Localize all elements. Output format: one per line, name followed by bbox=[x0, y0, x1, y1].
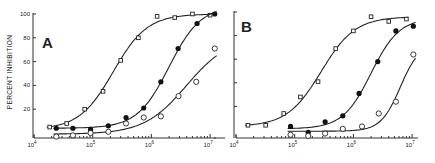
data-point-open-square bbox=[282, 112, 286, 116]
fit-curve-open-square bbox=[47, 14, 213, 127]
data-point-filled-circle bbox=[356, 91, 361, 96]
data-point-open-square bbox=[101, 90, 105, 94]
data-point-open-circle bbox=[340, 126, 345, 131]
data-point-open-square bbox=[352, 29, 356, 33]
y-tick-label: 20 bbox=[23, 106, 30, 112]
data-point-filled-circle bbox=[194, 21, 199, 26]
fit-curve-filled-circle bbox=[53, 12, 216, 129]
data-point-open-square bbox=[369, 15, 373, 19]
x-tick-label: 105 bbox=[86, 140, 96, 148]
data-point-open-square bbox=[65, 122, 69, 126]
data-point-filled-circle bbox=[393, 28, 398, 33]
data-point-open-circle bbox=[123, 121, 128, 126]
x-tick-label: 107 bbox=[203, 140, 213, 148]
data-point-open-square bbox=[299, 95, 303, 99]
data-point-filled-circle bbox=[106, 123, 111, 128]
y-tick-label: 100 bbox=[20, 11, 31, 17]
data-point-open-circle bbox=[288, 132, 293, 137]
data-point-filled-circle bbox=[212, 11, 217, 16]
data-point-open-square bbox=[119, 59, 123, 63]
data-point-filled-circle bbox=[411, 24, 416, 29]
x-tick-label: 106 bbox=[347, 140, 357, 148]
data-point-open-square bbox=[191, 12, 195, 16]
data-point-filled-circle bbox=[54, 126, 59, 131]
panel-a-plot: 20406080100104105106107A bbox=[20, 11, 217, 148]
data-point-open-circle bbox=[393, 99, 398, 104]
x-tick-label: 104 bbox=[27, 140, 37, 148]
data-point-open-circle bbox=[306, 133, 311, 138]
x-tick-label: 105 bbox=[288, 140, 298, 148]
data-point-open-circle bbox=[158, 114, 163, 119]
data-point-open-circle bbox=[323, 131, 328, 136]
data-point-open-circle bbox=[411, 52, 416, 57]
data-point-open-circle bbox=[54, 134, 59, 139]
data-point-open-circle bbox=[70, 133, 75, 138]
y-tick-label: 80 bbox=[23, 35, 30, 41]
data-point-open-square bbox=[83, 107, 87, 111]
data-point-open-square bbox=[405, 17, 409, 21]
data-point-filled-circle bbox=[375, 59, 380, 64]
data-point-filled-circle bbox=[70, 126, 75, 131]
x-tick-label: 106 bbox=[145, 140, 155, 148]
panel-label: B bbox=[241, 18, 252, 35]
data-point-open-square bbox=[137, 36, 141, 40]
panel-label: A bbox=[42, 34, 53, 51]
fit-curve-open-circle bbox=[288, 58, 416, 131]
x-tick-label: 107 bbox=[405, 140, 415, 148]
fit-curve-open-square bbox=[245, 17, 408, 125]
data-point-filled-circle bbox=[323, 119, 328, 124]
data-point-filled-circle bbox=[175, 46, 180, 51]
data-point-open-square bbox=[316, 80, 320, 84]
data-point-filled-circle bbox=[123, 115, 128, 120]
data-point-open-square bbox=[173, 16, 177, 20]
data-point-open-circle bbox=[106, 129, 111, 134]
y-tick-label: 60 bbox=[23, 59, 30, 65]
data-point-open-square bbox=[264, 123, 268, 127]
data-point-open-circle bbox=[141, 115, 146, 120]
panel-b-plot: 104105106107B bbox=[214, 11, 418, 148]
data-point-open-square bbox=[334, 47, 338, 51]
fit-curve-filled-circle bbox=[288, 23, 416, 129]
fit-curve-open-circle bbox=[53, 56, 216, 134]
data-point-open-square bbox=[387, 20, 391, 24]
data-point-open-circle bbox=[376, 111, 381, 116]
data-point-filled-circle bbox=[288, 124, 293, 129]
data-point-open-circle bbox=[359, 124, 364, 129]
dose-response-figure: 20406080100104105106107A 104105106107B P… bbox=[0, 0, 435, 163]
y-axis-label: PERCENT INHIBITION bbox=[6, 35, 13, 110]
y-tick-label: 40 bbox=[23, 82, 30, 88]
data-point-filled-circle bbox=[340, 113, 345, 118]
data-point-filled-circle bbox=[158, 79, 163, 84]
data-point-open-circle bbox=[88, 130, 93, 135]
data-point-open-circle bbox=[176, 94, 181, 99]
data-point-filled-circle bbox=[141, 105, 146, 110]
data-point-open-square bbox=[246, 123, 250, 127]
data-point-open-square bbox=[48, 125, 52, 129]
data-point-open-square bbox=[155, 15, 159, 19]
data-point-open-circle bbox=[212, 46, 217, 51]
data-point-open-circle bbox=[194, 79, 199, 84]
x-tick-label: 104 bbox=[229, 140, 239, 148]
